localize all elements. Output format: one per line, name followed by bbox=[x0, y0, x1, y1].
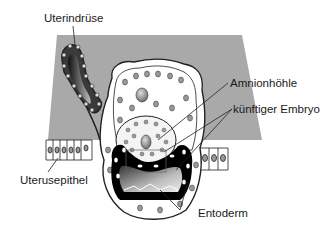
label-kunftiger-embryo: künftiger Embryo bbox=[233, 104, 320, 116]
trophoblast-large-nucleus bbox=[136, 88, 148, 102]
label-entoderm: Entoderm bbox=[198, 208, 248, 220]
label-amnionhohle: Amnionhöhle bbox=[230, 78, 297, 90]
uterine-epithelium-right bbox=[200, 148, 228, 170]
implantation-diagram bbox=[0, 0, 336, 236]
uterine-epithelium-left bbox=[46, 140, 92, 160]
label-uterusepithel: Uterusepithel bbox=[20, 175, 88, 187]
label-uterindruse: Uterindrüse bbox=[44, 13, 103, 25]
